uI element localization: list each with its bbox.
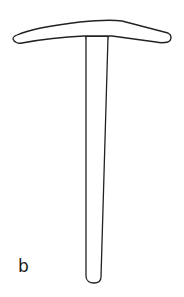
t-tool-drawing — [0, 0, 184, 297]
t-tool-illustration: b — [0, 0, 184, 297]
panel-label: b — [18, 256, 29, 276]
handle-outline — [86, 37, 108, 283]
